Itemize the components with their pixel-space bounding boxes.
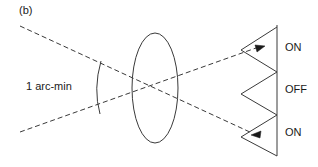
angle-arc: [97, 61, 101, 114]
state-label-on-top: ON: [285, 42, 302, 53]
state-label-on-bottom: ON: [285, 127, 302, 138]
arrowhead-right-icon: [255, 45, 265, 52]
optical-diagram-figure: (b) 1 arc-min ON OFF ON: [0, 0, 318, 167]
angle-annotation-label: 1 arc-min: [26, 81, 72, 92]
panel-label: (b): [19, 5, 32, 16]
state-label-off-middle: OFF: [285, 84, 307, 95]
arrowhead-left-icon: [251, 131, 261, 138]
